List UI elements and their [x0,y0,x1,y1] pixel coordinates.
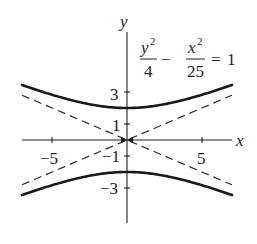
eq-term1-numerator: y [139,38,149,57]
hyperbola-plot: x y −5 5 −3 −1 1 3 y 2 4 − x 2 [0,0,257,244]
eq-equals-sign: = [211,50,221,69]
y-tick-label-3: 3 [110,85,119,104]
x-tick-label-5: 5 [197,149,206,168]
y-tick-label-neg1: −1 [102,147,120,166]
equation-label: y 2 4 − x 2 25 = 1 [139,35,236,81]
eq-rhs: 1 [227,50,236,69]
eq-term1-exponent: 2 [150,35,156,47]
y-axis-label: y [118,12,128,31]
eq-term2-numerator: x [187,38,196,57]
x-tick-label-neg5: −5 [40,149,58,168]
eq-term2-denominator: 25 [187,62,204,81]
hyperbola-figure: x y −5 5 −3 −1 1 3 y 2 4 − x 2 [0,0,257,244]
x-axis-label: x [235,131,244,150]
eq-term1-denominator: 4 [144,62,153,81]
y-tick-label-1: 1 [112,116,121,135]
y-tick-label-neg3: −3 [100,179,118,198]
eq-term2-exponent: 2 [197,35,203,47]
eq-minus-sign: − [161,50,171,69]
